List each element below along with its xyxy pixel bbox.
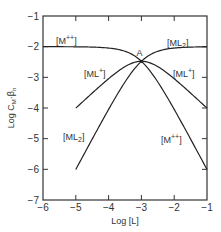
curves: A <box>43 47 207 170</box>
label-m-plus-plus-bottom: [M++] <box>161 133 182 145</box>
curve-m-plus-plus <box>43 47 207 170</box>
y-tick-label: −2 <box>28 41 40 52</box>
curve-labels: [M++][ML2][ML+][ML+][ML2][M++] <box>56 34 195 145</box>
label-ml2-bottom: [ML2] <box>63 132 84 143</box>
x-tick-label: −6 <box>37 202 49 213</box>
y-tick-label: −6 <box>28 164 40 175</box>
x-tick-label: −2 <box>168 202 180 213</box>
point-a-marker <box>140 60 143 63</box>
point-a-label: A <box>136 48 142 58</box>
x-tick-label: −1 <box>201 202 213 213</box>
label-ml-plus-left: [ML+] <box>84 67 106 79</box>
label-m-plus-plus-top: [M++] <box>56 34 77 46</box>
y-tick-label: −3 <box>28 72 40 83</box>
x-axis-title: Log [L] <box>111 216 139 226</box>
y-tick-label: −4 <box>28 103 40 114</box>
y-axis-title: Log CM·βn <box>6 88 17 129</box>
label-ml-plus-right: [ML+] <box>173 67 195 79</box>
x-tick-label: −3 <box>136 202 148 213</box>
y-tick-label: −1 <box>28 11 40 22</box>
chart: −6−5−4−3−2−1−1−2−3−4−5−6−7Log [L]Log CM·… <box>0 0 221 232</box>
y-tick-label: −7 <box>28 195 40 206</box>
curve-ml2 <box>76 47 207 170</box>
x-tick-label: −4 <box>103 202 115 213</box>
label-ml2-top: [ML2] <box>167 38 188 49</box>
y-tick-label: −5 <box>28 133 40 144</box>
x-tick-label: −5 <box>70 202 82 213</box>
